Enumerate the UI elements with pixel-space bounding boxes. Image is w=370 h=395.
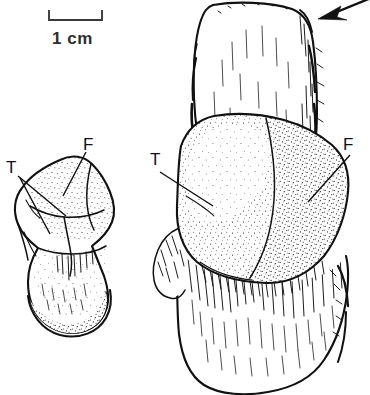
arrow-annotation <box>318 0 370 20</box>
scale-bar-bracket <box>49 10 102 20</box>
left-specimen-drawing: T F <box>6 135 114 336</box>
left-specimen-label-T: T <box>6 158 16 177</box>
left-specimen-label-F: F <box>83 135 93 154</box>
right-specimen-label-T: T <box>150 150 160 169</box>
right-specimen-label-F: F <box>343 135 353 154</box>
scale-bar-label: 1 cm <box>52 29 93 48</box>
scale-bar: 1 cm <box>49 10 102 48</box>
arrow-head-icon <box>318 6 347 20</box>
figure-canvas: 1 cm <box>0 0 370 395</box>
right-specimen-drawing: T F <box>150 3 358 395</box>
bone-figure-illustration: 1 cm <box>0 0 370 395</box>
